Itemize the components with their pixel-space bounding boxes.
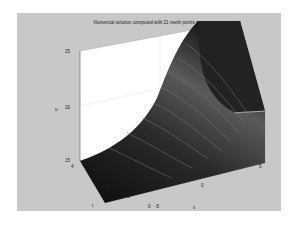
surface-plot: 25 20 15 u 4 3 2 1 0 t -5 0 5 x: [17, 13, 281, 211]
x-axis-label: x: [193, 205, 196, 210]
z-tick-20: 20: [65, 105, 71, 110]
z-tick-25: 25: [65, 49, 71, 54]
t-tick-1: 1: [127, 194, 130, 199]
t-tick-3: 3: [92, 174, 95, 179]
t-tick-4: 4: [71, 164, 74, 169]
x-tick-m5: -5: [155, 204, 160, 209]
z-tick-15: 15: [65, 158, 71, 163]
x-tick-5: 5: [259, 164, 262, 169]
x-tick-0: 0: [201, 183, 204, 188]
z-axis-label: u: [55, 107, 58, 112]
t-tick-2: 2: [108, 185, 111, 190]
t-tick-0: 0: [148, 204, 151, 209]
t-axis-label: t: [92, 203, 94, 208]
figure-window: Numerical solution computed with 21 mesh…: [17, 13, 281, 211]
